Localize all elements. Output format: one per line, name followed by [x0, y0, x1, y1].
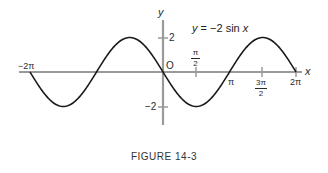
figure: y x O 2 −2 −2π π 2 π 3π 2 2π y = −2 sin …	[0, 0, 328, 173]
x-axis-label: x	[305, 66, 311, 77]
fraction-numerator: π	[193, 49, 199, 57]
x-tick-label-pi-over-2: π 2	[191, 49, 200, 68]
equation-var: x	[243, 22, 249, 34]
y-axis-label: y	[158, 7, 164, 18]
fraction-denominator: 2	[259, 90, 263, 98]
x-tick-label-pi: π	[228, 78, 234, 87]
equation-label: y = −2 sin x	[192, 22, 248, 34]
x-tick-label-3pi-over-2: 3π 2	[255, 79, 267, 98]
y-tick-label-2: 2	[169, 33, 175, 43]
equation-equals: =	[198, 22, 211, 34]
origin-label: O	[166, 61, 174, 71]
plot-area	[0, 0, 328, 173]
figure-caption: FIGURE 14-3	[0, 151, 328, 162]
x-tick-label-neg2pi: −2π	[18, 62, 34, 71]
fraction-denominator: 2	[193, 60, 197, 68]
equation-rhs: −2 sin	[210, 22, 243, 34]
fraction-numerator: 3π	[256, 79, 266, 87]
x-tick-label-2pi: 2π	[290, 78, 301, 87]
y-tick-label-neg2: −2	[145, 102, 156, 112]
